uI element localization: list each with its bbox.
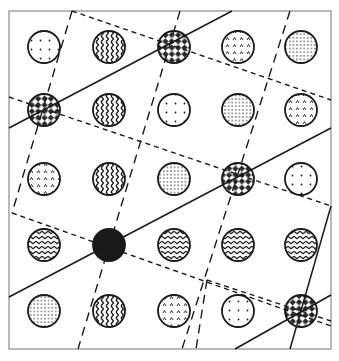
circle-sparse-dots — [28, 31, 60, 63]
circle-triangles — [28, 163, 60, 195]
solid-line — [290, 206, 331, 349]
circle-horizontal-zigzag — [28, 229, 60, 261]
circle-grid — [28, 31, 317, 327]
circle-triangles — [285, 94, 317, 126]
circle-sparse-dots — [285, 163, 317, 195]
circle-horizontal-zigzag — [285, 229, 317, 261]
circle-horizontal-zigzag — [158, 229, 190, 261]
circle-dense-dots — [285, 31, 317, 63]
lattice-diagram — [0, 0, 339, 361]
circle-horizontal-zigzag — [222, 229, 254, 261]
circle-sparse-dots — [158, 94, 190, 126]
diagram-canvas — [0, 0, 339, 361]
circle-dense-dots — [28, 295, 60, 327]
circle-dense-dots — [222, 94, 254, 126]
circle-vertical-zigzag — [93, 163, 125, 195]
circle-vertical-zigzag — [93, 295, 125, 327]
circle-vertical-zigzag — [93, 31, 125, 63]
circle-vertical-zigzag — [93, 94, 125, 126]
circle-sparse-dots — [222, 295, 254, 327]
solid-line — [9, 128, 331, 297]
circle-triangles — [222, 31, 254, 63]
circle-triangles — [158, 295, 190, 327]
circle-dense-dots — [158, 163, 190, 195]
long-dashed-line — [196, 280, 207, 349]
